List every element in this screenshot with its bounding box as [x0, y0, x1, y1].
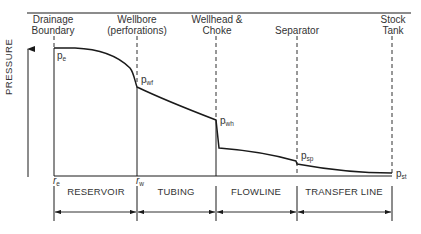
station-label-wellbore: Wellbore (perforations) [107, 14, 166, 36]
station-dashed-lines [54, 36, 392, 176]
segment-label-flowline: FLOWLINE [231, 186, 281, 197]
label-pst: pst [396, 168, 407, 180]
pressure-axis-label: PRESSURE [3, 39, 14, 95]
segment-label-tubing: TUBING [157, 186, 194, 197]
station-solid-lines [54, 48, 216, 176]
label-rw: rw [136, 175, 144, 187]
station-label-stock-tank: Stock Tank [380, 14, 405, 36]
segment-label-reservoir: RESERVOIR [67, 186, 125, 197]
label-pwf: pwf [141, 74, 153, 86]
station-label-separator: Separator [275, 14, 319, 36]
segment-label-transfer-line: TRANSFER LINE [305, 186, 383, 197]
label-pwh: pwh [220, 115, 234, 127]
station-label-wellhead-choke: Wellhead & Choke [192, 14, 243, 36]
label-psp: psp [301, 150, 313, 162]
station-label-drainage-boundary: Drainage Boundary [32, 14, 75, 36]
pressure-curve [54, 48, 392, 173]
label-pe: pe [57, 50, 66, 62]
label-re: re [53, 175, 60, 187]
